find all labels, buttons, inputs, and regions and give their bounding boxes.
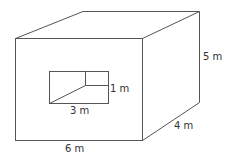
width-label: 6 m [65, 144, 84, 154]
depth-label: 4 m [174, 121, 193, 131]
prism-drawing [0, 0, 231, 160]
cutout-inner-diagonal-edge [50, 86, 86, 104]
cutout-height-label: 1 m [110, 84, 129, 94]
height-label: 5 m [203, 52, 222, 62]
top-face-edges [16, 12, 200, 39]
cutout-width-label: 3 m [70, 106, 89, 116]
prism-diagram: 5 m 4 m 6 m 3 m 1 m [0, 0, 231, 160]
